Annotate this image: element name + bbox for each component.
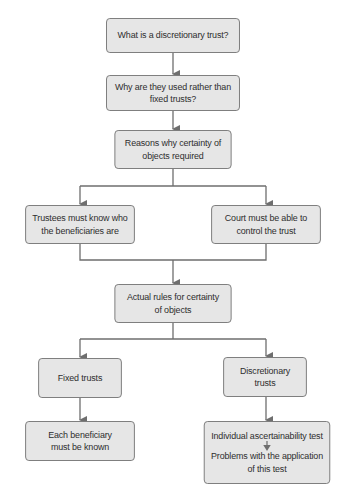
node-label-line-2: trusts xyxy=(255,377,276,390)
node-label-problems-line-2: of this test xyxy=(247,463,286,476)
node-what-is-discretionary-trust: What is a discretionary trust? xyxy=(106,18,240,53)
node-label-line-2: objects required xyxy=(142,150,203,163)
node-label-line-1: Reasons why certainty of xyxy=(125,137,221,150)
node-court-control: Court must be able to control the trust xyxy=(211,205,321,244)
node-label-line-1: Why are they used rather than xyxy=(115,81,231,94)
flowchart-canvas: What is a discretionary trust? Why are t… xyxy=(0,0,351,504)
line-merge xyxy=(80,244,266,260)
node-label-line-1: Court must be able to xyxy=(225,212,307,225)
node-reasons-certainty: Reasons why certainty of objects require… xyxy=(114,130,231,169)
node-each-beneficiary: Each beneficiary must be known xyxy=(25,421,135,461)
node-why-used: Why are they used rather than fixed trus… xyxy=(106,75,240,111)
node-label-line-1: Trustees must know who xyxy=(32,212,127,225)
node-actual-rules: Actual rules for certainty of objects xyxy=(114,284,231,323)
node-label-line-2: the beneficiaries are xyxy=(41,225,118,238)
node-discretionary-trusts: Discretionary trusts xyxy=(223,357,307,397)
node-trustees-must-know: Trustees must know who the beneficiaries… xyxy=(25,205,135,244)
node-fixed-trusts: Fixed trusts xyxy=(38,358,122,398)
node-label-line-1: Actual rules for certainty xyxy=(127,291,219,304)
node-label: Fixed trusts xyxy=(58,372,102,385)
node-label-line-2: of objects xyxy=(155,304,192,317)
node-label-line-1: Each beneficiary xyxy=(48,429,112,442)
node-label: What is a discretionary trust? xyxy=(118,29,229,42)
node-individual-ascertainability: Individual ascertainability test Problem… xyxy=(204,421,330,484)
node-label-line-2: must be known xyxy=(51,441,109,454)
node-label-line-1: Discretionary xyxy=(240,365,290,378)
node-label-line-2: fixed trusts? xyxy=(150,93,196,106)
node-label-problems-line-1: Problems with the application xyxy=(211,450,323,463)
node-label-line-2: control the trust xyxy=(236,225,295,238)
